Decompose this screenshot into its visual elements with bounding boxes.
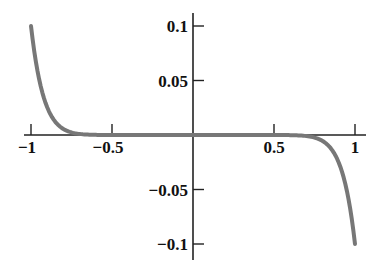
- x-tick-label: −1: [18, 138, 36, 157]
- x-tick-label: 0.5: [263, 138, 284, 157]
- y-tick-label: −0.05: [149, 181, 188, 200]
- y-tick-label: 0.1: [167, 17, 188, 36]
- y-tick-label: −0.1: [157, 235, 188, 254]
- x-tick-label: −0.5: [93, 138, 124, 157]
- x-ticks: −1−0.50.51: [18, 124, 359, 157]
- chart: −1−0.50.51 0.10.05−0.05−0.1: [0, 0, 384, 272]
- x-tick-label: 1: [351, 138, 360, 157]
- y-tick-label: 0.05: [158, 72, 188, 91]
